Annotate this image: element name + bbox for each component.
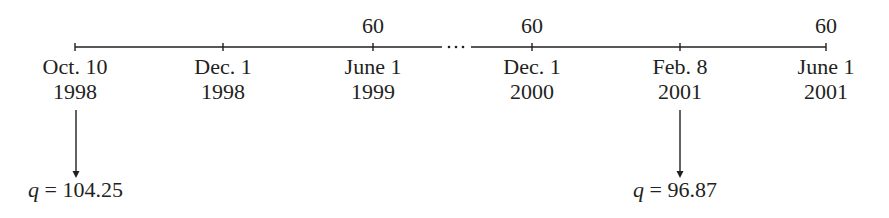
tick-date-label: Dec. 1 bbox=[194, 55, 251, 79]
tick-year-label: 2000 bbox=[510, 80, 554, 104]
q-variable: q bbox=[633, 177, 644, 202]
period-value-label: 60 bbox=[815, 14, 837, 38]
period-value-label: 60 bbox=[362, 14, 384, 38]
tick-date-label: Feb. 8 bbox=[653, 55, 708, 79]
period-value-label: 60 bbox=[521, 14, 543, 38]
q-value-1998: q = 104.25 bbox=[28, 178, 123, 202]
ellipsis-dot bbox=[455, 46, 458, 49]
q-variable: q bbox=[28, 177, 39, 202]
tick-year-label: 1998 bbox=[201, 80, 245, 104]
q-number: 104.25 bbox=[62, 177, 123, 202]
ellipsis-dot bbox=[462, 46, 465, 49]
equals-sign: = bbox=[39, 177, 62, 202]
q-value-2001: q = 96.87 bbox=[633, 178, 717, 202]
tick-year-label: 2001 bbox=[804, 80, 848, 104]
tick-date-label: June 1 bbox=[345, 55, 402, 79]
q-number: 96.87 bbox=[667, 177, 717, 202]
tick-year-label: 1999 bbox=[351, 80, 395, 104]
tick-date-label: Dec. 1 bbox=[503, 55, 560, 79]
tick-date-label: Oct. 10 bbox=[43, 55, 108, 79]
tick-year-label: 1998 bbox=[53, 80, 97, 104]
tick-date-label: June 1 bbox=[798, 55, 855, 79]
ellipsis-dot bbox=[448, 46, 451, 49]
timeline-axis bbox=[0, 0, 889, 218]
tick-year-label: 2001 bbox=[658, 80, 702, 104]
equals-sign: = bbox=[644, 177, 667, 202]
